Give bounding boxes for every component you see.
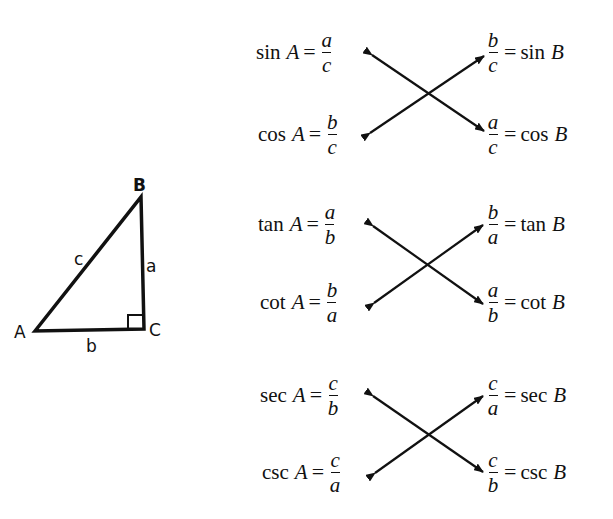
fraction: a b [486,279,500,326]
fraction: b c [486,29,500,76]
fraction: c a [328,449,342,496]
denominator: a [327,304,338,326]
numerator: b [488,201,499,223]
function-name: cot [520,290,546,315]
equation-sin-b: b c = sin B [486,22,564,82]
fraction: c a [486,372,500,419]
equals: = [504,459,516,485]
angle-var: A [287,40,300,65]
function-name: cot [260,290,286,315]
equation-csc-a: csc A = c a [262,442,342,502]
fraction: b c [325,111,339,158]
denominator: c [488,54,497,76]
numerator: c [328,372,337,394]
denominator: a [488,397,499,419]
function-name: sec [260,383,287,408]
equals: = [310,382,322,408]
function-name: tan [520,212,546,237]
equals: = [306,211,318,237]
equation-cos-a: cos A = b c [258,104,339,164]
function-name: sec [520,383,547,408]
denominator: c [328,136,337,158]
denominator: a [330,474,341,496]
numerator: b [327,279,338,301]
angle-var: B [554,122,567,147]
fraction: a c [320,29,334,76]
equation-cot-b: a b = cot B [486,272,565,332]
function-name: tan [258,212,284,237]
numerator: b [488,29,499,51]
numerator: a [488,111,499,133]
angle-var: B [553,383,566,408]
equals: = [303,39,315,65]
equals: = [504,382,516,408]
function-name: cos [520,122,548,147]
equals: = [504,289,516,315]
denominator: c [488,136,497,158]
function-name: csc [520,460,547,485]
denominator: b [488,474,499,496]
numerator: a [488,279,499,301]
equation-cos-b: a c = cos B [486,104,567,164]
denominator: b [328,397,339,419]
equation-sin-a: sin A = a c [256,22,334,82]
denominator: c [322,54,331,76]
equals: = [312,459,324,485]
equals: = [504,39,516,65]
function-name: csc [262,460,289,485]
angle-var: B [553,460,566,485]
denominator: a [488,226,499,248]
numerator: a [322,29,333,51]
function-name: cos [258,122,286,147]
angle-var: A [292,122,305,147]
equation-csc-b: c b = csc B [486,442,566,502]
fraction: a c [486,111,500,158]
numerator: c [330,449,339,471]
fraction: c b [486,449,500,496]
denominator: b [325,226,336,248]
numerator: c [488,372,497,394]
fraction: a b [323,201,337,248]
numerator: b [327,111,338,133]
angle-var: A [292,290,305,315]
function-name: sin [520,40,545,65]
equation-sec-b: c a = sec B [486,365,566,425]
equals: = [504,121,516,147]
fraction: b a [486,201,500,248]
function-name: sin [256,40,281,65]
equation-cot-a: cot A = b a [260,272,339,332]
angle-var: B [552,290,565,315]
equation-sec-a: sec A = c b [260,365,340,425]
fraction: b a [325,279,339,326]
equals: = [308,289,320,315]
equals: = [309,121,321,147]
angle-var: B [552,212,565,237]
equation-tan-a: tan A = a b [258,194,337,254]
fraction: c b [326,372,340,419]
numerator: a [325,201,336,223]
angle-var: B [551,40,564,65]
equals: = [504,211,516,237]
denominator: b [488,304,499,326]
angle-var: A [293,383,306,408]
numerator: c [488,449,497,471]
equation-tan-b: b a = tan B [486,194,565,254]
angle-var: A [290,212,303,237]
angle-var: A [295,460,308,485]
